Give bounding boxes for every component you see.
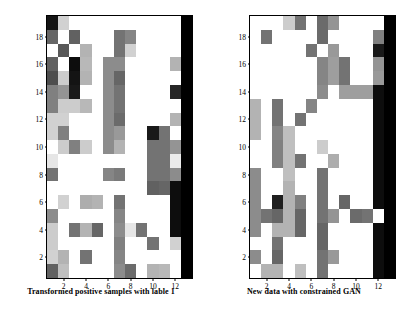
- heatmap-cell: [159, 237, 170, 251]
- x-tick-mark: [266, 278, 267, 281]
- heatmap-cell: [114, 237, 125, 251]
- heatmap-cell: [350, 57, 361, 71]
- heatmap-cell: [317, 85, 328, 99]
- heatmap-cell: [80, 71, 91, 85]
- heatmap-cell: [170, 195, 181, 209]
- heatmap-cell: [47, 223, 58, 237]
- heatmap-cell: [373, 237, 384, 251]
- heatmap-cell: [136, 30, 147, 44]
- heatmap-cell: [261, 44, 272, 58]
- heatmap-cell: [283, 16, 294, 30]
- heatmap-cell: [317, 195, 328, 209]
- heatmap-cell: [69, 250, 80, 264]
- heatmap-cell: [114, 30, 125, 44]
- heatmap-cell: [136, 57, 147, 71]
- x-tick-mark: [289, 278, 290, 281]
- heatmap-cell: [350, 181, 361, 195]
- x-tick-mark: [108, 278, 109, 281]
- heatmap-cell: [114, 99, 125, 113]
- heatmap-cell: [69, 154, 80, 168]
- heatmap-cell: [350, 30, 361, 44]
- heatmap-cell: [295, 57, 306, 71]
- heatmap-cell: [250, 181, 261, 195]
- heatmap-cell: [250, 113, 261, 127]
- heatmap-cell: [181, 154, 192, 168]
- heatmap-cell: [306, 181, 317, 195]
- heatmap-cell: [272, 195, 283, 209]
- heatmap-cell: [272, 181, 283, 195]
- y-tick-mark: [45, 202, 48, 203]
- heatmap-cell: [147, 250, 158, 264]
- heatmap-cell: [306, 85, 317, 99]
- heatmap-cell: [295, 44, 306, 58]
- heatmap-cell: [159, 250, 170, 264]
- heatmap-cell: [92, 250, 103, 264]
- heatmap-cell: [103, 16, 114, 30]
- heatmap-cell: [328, 264, 339, 278]
- heatmap-cell: [136, 264, 147, 278]
- y-tick-mark: [45, 64, 48, 65]
- heatmap-cell: [384, 195, 395, 209]
- heatmap-cell: [47, 181, 58, 195]
- heatmap-cell: [125, 209, 136, 223]
- heatmap-cell: [283, 126, 294, 140]
- heatmap-cell: [69, 195, 80, 209]
- x-tick-mark: [86, 278, 87, 281]
- heatmap-cell: [362, 30, 373, 44]
- heatmap-cell: [283, 99, 294, 113]
- heatmap-cell: [339, 71, 350, 85]
- heatmap-cell: [136, 113, 147, 127]
- y-tick-mark: [45, 147, 48, 148]
- heatmap-cell: [384, 99, 395, 113]
- heatmap-cell: [147, 126, 158, 140]
- heatmap-cell: [261, 209, 272, 223]
- heatmap-cell: [136, 195, 147, 209]
- heatmap-cell: [295, 113, 306, 127]
- heatmap-cell: [339, 237, 350, 251]
- heatmap-cell: [384, 57, 395, 71]
- heatmap-cell: [295, 71, 306, 85]
- heatmap-cell: [339, 44, 350, 58]
- heatmap-cell: [147, 16, 158, 30]
- y-tick-mark: [45, 36, 48, 37]
- heatmap-cell: [283, 140, 294, 154]
- heatmap-cell: [373, 99, 384, 113]
- heatmap-cell: [47, 264, 58, 278]
- heatmap-cell: [92, 99, 103, 113]
- heatmap-cell: [170, 44, 181, 58]
- heatmap-cell: [125, 44, 136, 58]
- heatmap-cell: [339, 168, 350, 182]
- heatmap-cell: [272, 140, 283, 154]
- heatmap-cell: [136, 209, 147, 223]
- heatmap-cell: [125, 154, 136, 168]
- heatmap-cell: [328, 44, 339, 58]
- heatmap-cell: [47, 237, 58, 251]
- heatmap-cell: [47, 250, 58, 264]
- heatmap-cell: [103, 99, 114, 113]
- heatmap-cell: [306, 57, 317, 71]
- heatmap-cell: [170, 209, 181, 223]
- heatmap-cell: [339, 140, 350, 154]
- heatmap-cell: [250, 195, 261, 209]
- heatmap-cell: [69, 223, 80, 237]
- heatmap-cell: [306, 209, 317, 223]
- heatmap-cell: [47, 30, 58, 44]
- heatmap-cell: [295, 85, 306, 99]
- heatmap-cell: [272, 250, 283, 264]
- heatmap-cell: [339, 16, 350, 30]
- heatmap-cell: [58, 181, 69, 195]
- heatmap-cell: [103, 85, 114, 99]
- heatmap-cell: [159, 85, 170, 99]
- heatmap-cell: [170, 168, 181, 182]
- heatmap-cell: [125, 99, 136, 113]
- heatmap-cell: [317, 140, 328, 154]
- heatmap-cell: [47, 16, 58, 30]
- heatmap-cell: [80, 195, 91, 209]
- caption-left: Transformed positive samples with lable …: [0, 287, 202, 296]
- heatmap-cell: [80, 223, 91, 237]
- heatmap-cell: [103, 237, 114, 251]
- heatmap-cell: [181, 264, 192, 278]
- heatmap-cell: [181, 44, 192, 58]
- heatmap-cell: [373, 44, 384, 58]
- heatmap-cell: [92, 57, 103, 71]
